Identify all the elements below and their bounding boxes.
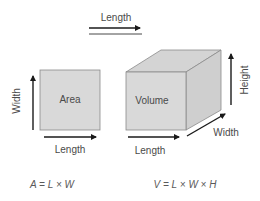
area-formula: A = L × W: [29, 179, 75, 190]
area-length-label: Length: [55, 144, 86, 155]
volume-width-label: Width: [213, 127, 239, 138]
top-length-indicator: Length: [89, 12, 142, 34]
volume-label: Volume: [135, 95, 169, 106]
area-width-label: Width: [11, 88, 22, 114]
volume-figure: Volume Height Width Length V = L × W × H: [126, 50, 250, 190]
area-figure: Area Width Length A = L × W: [11, 70, 100, 190]
volume-height-label: Height: [239, 65, 250, 94]
top-length-label: Length: [101, 12, 132, 23]
area-label: Area: [59, 94, 81, 105]
area-volume-diagram: Length Area Width Length A = L × W Volum…: [0, 0, 260, 201]
volume-formula: V = L × W × H: [154, 179, 218, 190]
volume-length-label: Length: [135, 145, 166, 156]
